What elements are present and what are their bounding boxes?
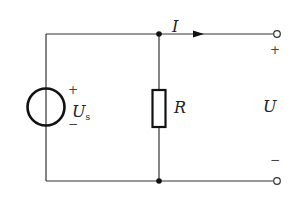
resistor-label: R [174,100,186,116]
output-voltage-label: U [263,99,276,115]
junction-dot-bottom [156,178,162,184]
terminal-bottom [274,178,281,185]
source-plus-sign: + [68,84,78,96]
current-arrow-icon [193,31,204,38]
terminal-top [274,31,281,38]
source-minus-sign: − [68,118,78,130]
current-label: I [172,19,178,35]
source-label-subscript: s [85,112,90,122]
circuit-diagram [0,0,295,203]
resistor-icon [153,90,166,127]
output-plus-sign: + [270,44,280,56]
output-minus-sign: − [270,154,280,166]
junction-dot-top [156,31,162,37]
